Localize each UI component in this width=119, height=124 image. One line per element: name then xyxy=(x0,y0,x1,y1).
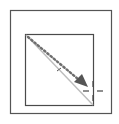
diagonal-line-tool-icon[interactable] xyxy=(0,0,119,124)
